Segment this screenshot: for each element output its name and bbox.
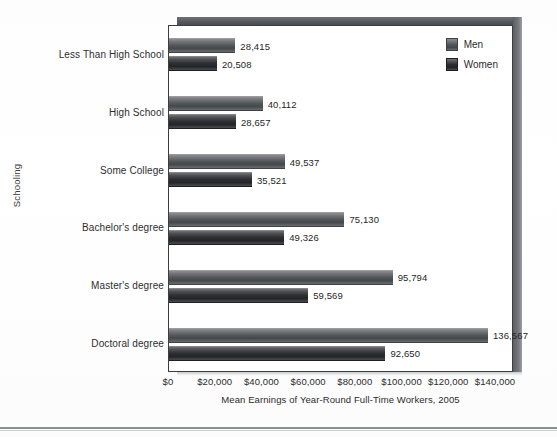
y-axis-label-2: Some College — [10, 164, 164, 175]
legend-swatch-men-icon — [446, 38, 458, 51]
bar-group-3: 75,13049,326 — [169, 200, 512, 258]
legend-label-women: Women — [464, 59, 498, 70]
x-axis-tick-6: $120,000 — [428, 376, 468, 387]
bar-women-0 — [169, 56, 217, 71]
bar-value-women-1: 28,657 — [241, 116, 271, 127]
bar-value-women-2: 35,521 — [257, 174, 287, 185]
legend-label-men: Men — [464, 39, 483, 50]
y-axis-label-3: Bachelor's degree — [10, 222, 164, 233]
bar-group-4: 95,79459,569 — [169, 257, 512, 315]
x-axis-tick-7: $140,000 — [475, 376, 515, 387]
x-axis-tick-3: $60,000 — [291, 376, 326, 387]
y-axis-label-5: Doctoral degree — [10, 338, 164, 349]
x-axis-tick-0: $0 — [163, 376, 174, 387]
bar-group-5: 136,56792,650 — [169, 315, 512, 373]
plot-right-shadow-slab — [513, 17, 522, 372]
legend: Men Women — [446, 38, 498, 71]
x-axis-tick-1: $20,000 — [197, 376, 232, 387]
bar-group-2: 49,53735,521 — [169, 142, 512, 200]
bar-value-men-4: 95,794 — [398, 272, 428, 283]
x-axis-tick-4: $80,000 — [337, 376, 372, 387]
bar-women-1 — [169, 114, 236, 129]
x-axis-tick-5: $100,000 — [381, 376, 421, 387]
y-axis-label-0: Less Than High School — [10, 48, 164, 59]
bar-value-men-3: 75,130 — [349, 214, 379, 225]
bars-layer: 28,41520,50840,11228,65749,53735,52175,1… — [169, 26, 512, 371]
plot-area: 28,41520,50840,11228,65749,53735,52175,1… — [168, 25, 513, 372]
bar-men-5 — [169, 328, 488, 343]
bar-women-4 — [169, 288, 308, 303]
bar-value-women-3: 49,326 — [289, 232, 319, 243]
page-bottom-rule — [0, 427, 557, 429]
bar-women-2 — [169, 172, 252, 187]
x-axis-title: Mean Earnings of Year-Round Full-Time Wo… — [168, 394, 513, 405]
legend-item-men: Men — [446, 38, 498, 51]
legend-swatch-women-icon — [446, 58, 458, 71]
bar-women-5 — [169, 346, 385, 361]
bar-men-0 — [169, 38, 235, 53]
x-axis-tick-labels: $0$20,000$40,000$60,000$80,000$100,000$1… — [0, 376, 557, 390]
bar-group-1: 40,11228,657 — [169, 84, 512, 142]
bar-women-3 — [169, 230, 284, 245]
bar-men-2 — [169, 154, 285, 169]
bar-men-3 — [169, 212, 344, 227]
bar-value-men-0: 28,415 — [240, 40, 270, 51]
bar-value-men-1: 40,112 — [268, 98, 297, 109]
y-axis-category-labels: Less Than High SchoolHigh SchoolSome Col… — [10, 25, 164, 372]
bar-men-4 — [169, 270, 393, 285]
bar-men-1 — [169, 96, 263, 111]
bar-value-men-5: 136,567 — [493, 330, 528, 341]
bar-value-women-4: 59,569 — [313, 290, 343, 301]
y-axis-label-4: Master's degree — [10, 280, 164, 291]
x-axis-tick-2: $40,000 — [244, 376, 279, 387]
y-axis-label-1: High School — [10, 106, 164, 117]
page-bottom-rule-thin — [0, 430, 557, 431]
bar-value-men-2: 49,537 — [290, 156, 320, 167]
bar-value-women-0: 20,508 — [222, 58, 252, 69]
figure-page: Schooling Less Than High SchoolHigh Scho… — [0, 0, 557, 437]
legend-item-women: Women — [446, 58, 498, 71]
bar-value-women-5: 92,650 — [390, 348, 420, 359]
